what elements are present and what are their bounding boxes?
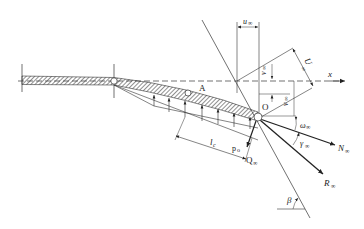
beta-label: β — [286, 195, 292, 205]
po-sub: o — [237, 147, 240, 153]
v-inf-upper-label: v — [259, 71, 268, 75]
R-inf-label: R — [323, 178, 330, 188]
R-inf-sub: ∞ — [331, 183, 336, 189]
Q-inf-label: Q — [246, 155, 253, 165]
U-inf-ray — [237, 48, 293, 81]
v-inf-lower-sub: ∞ — [283, 96, 289, 101]
point-A-marker — [185, 90, 191, 96]
Q-inf-sub: ∞ — [253, 160, 258, 166]
Q-inf-arrow — [247, 121, 256, 147]
gamma-sub: ∞ — [305, 143, 310, 149]
force-diagram: x l c p o A u ∞ U ∞ — [0, 0, 364, 229]
v-inf-lower-label: v — [281, 102, 290, 106]
N-inf-arrow — [260, 119, 335, 145]
gamma-arc — [293, 133, 299, 145]
gamma-label: γ — [300, 139, 304, 148]
point-O-marker — [254, 113, 262, 121]
U-inf-sub: ∞ — [300, 66, 308, 73]
omega-sub: ∞ — [306, 124, 311, 130]
hinge-left — [111, 78, 117, 84]
point-O-label: O — [262, 102, 269, 112]
x-axis-label: x — [327, 69, 332, 79]
v-inf-upper-sub: ∞ — [261, 65, 267, 70]
point-A-label: A — [199, 83, 206, 93]
lc-dimension: l c p o — [175, 117, 252, 162]
R-inf-arrow — [260, 120, 323, 174]
N-inf-sub: ∞ — [345, 148, 350, 154]
u-inf-label: u — [243, 17, 247, 26]
po-label: p — [232, 144, 236, 153]
u-inf-sub: ∞ — [248, 20, 253, 26]
omega-arc — [295, 120, 296, 130]
N-inf-label: N — [337, 143, 345, 153]
beta-arc — [293, 198, 298, 209]
lc-sub: c — [213, 142, 216, 148]
